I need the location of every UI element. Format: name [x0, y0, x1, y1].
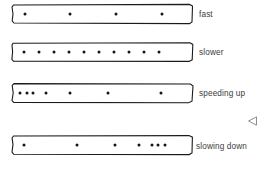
- tape-strip: [11, 134, 194, 156]
- tape-dot: [75, 144, 78, 147]
- tape-strip: [11, 41, 194, 63]
- tape-dot: [115, 13, 118, 16]
- tape-dot: [97, 51, 100, 54]
- tape-dot: [106, 92, 109, 95]
- tape-strip: [11, 82, 194, 104]
- dot-track: [11, 134, 194, 156]
- tape-row-slower: slower: [0, 41, 269, 67]
- tape-strip: [11, 3, 194, 25]
- tape-dot: [157, 51, 160, 54]
- tape-dot: [82, 51, 85, 54]
- tape-label-speeding-up: speeding up: [199, 89, 245, 98]
- tape-dot: [150, 144, 153, 147]
- tape-dot: [22, 51, 25, 54]
- tape-dot: [68, 92, 71, 95]
- tape-dot: [142, 51, 145, 54]
- triangle-glyph: [247, 115, 259, 127]
- tape-label-fast: fast: [199, 10, 213, 19]
- tape-dot: [52, 51, 55, 54]
- tape-dot: [112, 51, 115, 54]
- tape-row-slowing-down: slowing down: [0, 134, 269, 162]
- tape-dot: [114, 144, 117, 147]
- tape-dot: [31, 92, 34, 95]
- tape-dot: [19, 92, 22, 95]
- tape-dot: [67, 51, 70, 54]
- tape-row-speeding-up: speeding up: [0, 82, 269, 108]
- dot-track: [11, 82, 194, 104]
- left-pointing-triangle-icon: [247, 113, 259, 125]
- diagram-canvas: fast slower speeding up slowing down: [0, 0, 269, 175]
- tape-label-slowing-down: slowing down: [196, 142, 247, 151]
- tape-dot: [25, 92, 28, 95]
- tape-dot: [23, 13, 26, 16]
- dot-track: [11, 41, 194, 63]
- tape-dot: [44, 92, 47, 95]
- tape-dot: [160, 13, 163, 16]
- tape-dot: [163, 144, 166, 147]
- tape-dot: [127, 51, 130, 54]
- tape-row-fast: fast: [0, 3, 269, 29]
- tape-dot: [37, 51, 40, 54]
- tape-dot: [22, 144, 25, 147]
- tape-dot: [157, 144, 160, 147]
- tape-dot: [69, 13, 72, 16]
- tape-dot: [138, 144, 141, 147]
- tape-label-slower: slower: [199, 48, 224, 57]
- tape-dot: [160, 92, 163, 95]
- dot-track: [11, 3, 194, 25]
